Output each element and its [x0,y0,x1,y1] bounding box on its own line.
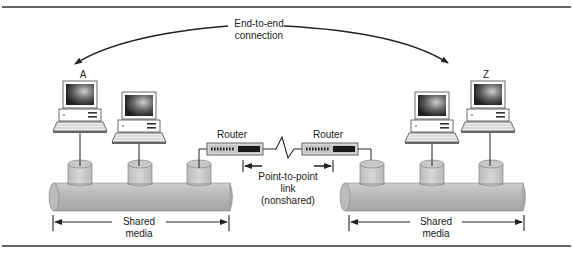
p2p-label-2: link [280,183,296,194]
computer-left-2[interactable] [112,92,166,144]
router-right[interactable] [302,143,358,155]
shared-left-label-2: media [125,228,153,239]
wan-link-zigzag [263,137,302,158]
shared-media-pipe-left [49,183,233,211]
computer-right-1[interactable] [405,92,459,144]
end-to-end-label-1: End-to-end [234,18,283,29]
endpoint-z-label: Z [483,69,489,80]
shared-left-label-1: Shared [123,216,155,227]
end-to-end-arrow-right [284,26,448,63]
router-left[interactable] [207,143,263,155]
end-to-end-label-2: connection [235,30,283,41]
tap-right-1 [360,160,384,186]
p2p-label-3: (nonshared) [261,195,315,206]
router-right-label: Router [313,129,344,140]
network-diagram: End-to-end connection A Z Router Router … [0,0,573,255]
tap-left-2 [128,160,152,186]
end-to-end-arrow-left [75,26,228,64]
computer-z[interactable] [461,81,515,133]
router-left-label: Router [217,129,248,140]
endpoint-a-label: A [80,69,87,80]
tap-right-3 [479,160,503,186]
computer-a[interactable] [53,81,107,133]
shared-right-label-1: Shared [420,216,452,227]
p2p-label-1: Point-to-point [258,171,318,182]
shared-media-pipe-right [340,183,526,211]
shared-right-label-2: media [422,228,450,239]
